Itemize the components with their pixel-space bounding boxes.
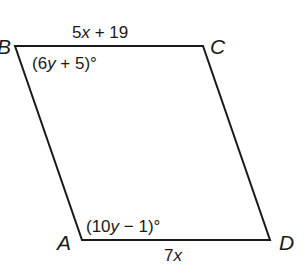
side-bc-rest: + 19 — [90, 23, 128, 42]
angle-b-rest: + 5)° — [56, 54, 97, 73]
side-ad-var: x — [173, 246, 182, 265]
angle-a-open: (10 — [86, 217, 111, 236]
angle-b-var: y — [47, 54, 56, 73]
angle-a-measure: (10y − 1)° — [86, 218, 160, 235]
vertex-label-d: D — [279, 232, 294, 253]
angle-a-rest: − 1)° — [119, 217, 160, 236]
vertex-label-a: A — [57, 232, 71, 253]
angle-a-var: y — [111, 217, 120, 236]
side-bc-var: x — [81, 23, 90, 42]
side-bc-length: 5x + 19 — [72, 24, 128, 41]
side-ad-length: 7x — [164, 247, 182, 264]
vertex-label-c: C — [210, 36, 225, 57]
parallelogram-abcd — [15, 46, 270, 240]
vertex-label-b: B — [0, 36, 11, 57]
angle-b-open: (6 — [32, 54, 47, 73]
parallelogram-diagram — [0, 0, 306, 278]
angle-b-measure: (6y + 5)° — [32, 55, 97, 72]
